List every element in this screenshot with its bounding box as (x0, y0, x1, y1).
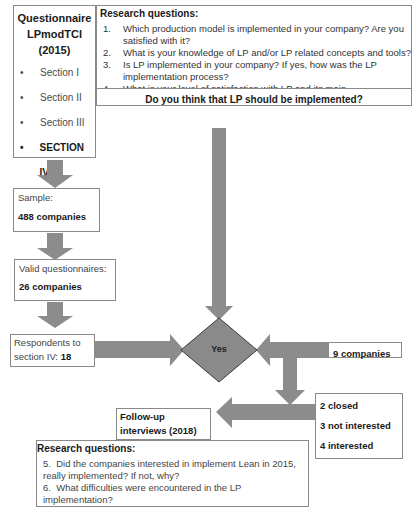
bullet-icon: • (14, 85, 40, 110)
respondents-label-line1: Respondents to (14, 336, 91, 350)
arrow-down-icon (37, 233, 73, 260)
bullet-icon: • (14, 135, 40, 185)
section-label: SECTION IV (40, 135, 95, 185)
respondents-box: Respondents to section IV: 18 (10, 334, 95, 367)
question-text: Did the companies interested in implemen… (43, 458, 296, 481)
question-text: What is your knowledge of LP and/or LP r… (123, 47, 411, 59)
question-number: 1. (97, 23, 123, 47)
research-question-item: 1.Which production model is implemented … (97, 23, 411, 47)
arrow-down-icon (37, 302, 73, 328)
outcome-interested: 4 interested (320, 436, 398, 456)
bullet-icon: • (14, 110, 40, 135)
arrow-down-icon (205, 128, 233, 320)
followup-line2: interviews (2018) (120, 424, 207, 438)
key-question: Do you think that LP should be implement… (145, 94, 363, 105)
nine-companies-box: 9 companies (328, 342, 402, 358)
research-question-item: 2.What is your knowledge of LP and/or LP… (97, 47, 411, 59)
sample-label: Sample: (18, 191, 95, 205)
valid-questionnaires-box: Valid questionnaires: 26 companies (14, 259, 116, 301)
questionnaire-box: Questionnaire LPmodTCI (2015) •Section I… (13, 5, 96, 158)
section-item: •Section I (14, 60, 95, 85)
question-text: Which production model is implemented in… (123, 23, 411, 47)
bullet-icon: • (14, 60, 40, 85)
research-questions-title: Research questions: (100, 8, 411, 19)
research-questions-bottom-box: Research questions: 5. Did the companies… (36, 440, 309, 507)
valid-label: Valid questionnaires: (19, 262, 111, 276)
research-questions-top-box: Research questions: 1.Which production m… (96, 5, 412, 88)
question-number: 3. (97, 59, 123, 83)
sample-box: Sample: 488 companies (13, 188, 100, 232)
nine-companies-label: 9 companies (333, 348, 391, 359)
research-questions-title: Research questions: (37, 443, 308, 454)
research-question-item: 3.Is LP implemented in your company? If … (97, 59, 411, 83)
arrow-down-icon (275, 358, 305, 405)
decision-label: Yes (199, 344, 239, 354)
question-number: 5. (43, 458, 51, 469)
arrow-left-icon (256, 334, 330, 366)
arrow-right-icon (95, 334, 184, 366)
sample-value: 488 companies (18, 211, 95, 222)
followup-line1: Follow-up (120, 410, 207, 424)
question-text: Is LP implemented in your company? If ye… (123, 59, 411, 83)
section-item: •Section II (14, 85, 95, 110)
key-question-box: Do you think that LP should be implement… (96, 88, 412, 106)
respondents-value: 18 (61, 351, 72, 362)
respondents-label-line2: section IV: (14, 351, 61, 362)
section-label: Section III (40, 110, 84, 135)
section-label: Section II (40, 85, 82, 110)
questionnaire-title: Questionnaire LPmodTCI (2015) (14, 10, 95, 58)
research-question-item: 5. Did the companies interested in imple… (43, 458, 308, 482)
research-question-item: 6. What difficulties were encountered in… (43, 482, 308, 506)
questionnaire-title-line2: LPmodTCI (2015) (14, 26, 95, 58)
outcome-not-interested: 3 not interested (320, 416, 398, 436)
questionnaire-title-line1: Questionnaire (14, 10, 95, 26)
section-label: Section I (40, 60, 79, 85)
outcomes-box: 2 closed 3 not interested 4 interested (315, 393, 403, 459)
question-number: 6. (43, 482, 51, 493)
outcome-closed: 2 closed (320, 396, 398, 416)
question-text: What difficulties were encountered in th… (43, 482, 241, 505)
followup-box: Follow-up interviews (2018) (116, 408, 211, 440)
valid-value: 26 companies (19, 281, 111, 292)
question-number: 2. (97, 47, 123, 59)
section-item-highlighted: •SECTION IV (14, 135, 95, 185)
section-item: •Section III (14, 110, 95, 135)
